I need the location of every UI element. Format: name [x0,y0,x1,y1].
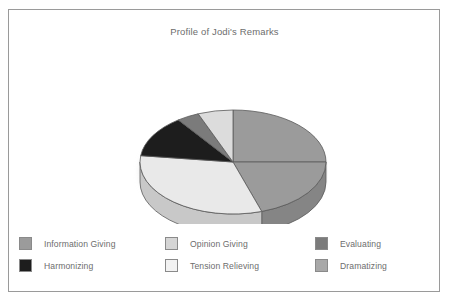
legend-swatch-icon [315,259,328,272]
legend-item-label: Information Giving [44,239,116,249]
legend-swatch-icon [165,259,178,272]
legend-item-label: Harmonizing [44,261,93,271]
legend-item-evaluating[interactable]: Evaluating [315,234,431,253]
legend-item-information-giving[interactable]: Information Giving [19,234,165,253]
pie-slices: Information Giving: 25Dramatizing: 20Opi… [140,110,326,214]
legend-row: Harmonizing Tension Relieving Dramatizin… [19,256,431,275]
legend-item-label: Dramatizing [340,261,387,271]
legend-item-label: Evaluating [340,239,381,249]
legend-swatch-icon [19,237,32,250]
legend-item-label: Opinion Giving [190,239,248,249]
legend-item-label: Tension Relieving [190,261,259,271]
legend-swatch-icon [19,259,32,272]
legend-item-dramatizing[interactable]: Dramatizing [315,256,431,275]
pie-chart: Information Giving: 25Dramatizing: 20Opi… [128,44,328,224]
legend-swatch-icon [165,237,178,250]
legend-item-harmonizing[interactable]: Harmonizing [19,256,165,275]
legend-swatch-icon [315,237,328,250]
pie-chart-svg: Information Giving: 25Dramatizing: 20Opi… [128,44,328,224]
chart-title: Profile of Jodi's Remarks [0,26,449,37]
legend-row: Information Giving Opinion Giving Evalua… [19,234,431,253]
chart-legend: Information Giving Opinion Giving Evalua… [19,232,431,282]
legend-item-opinion-giving[interactable]: Opinion Giving [165,234,315,253]
legend-item-tension-relieving[interactable]: Tension Relieving [165,256,315,275]
chart-figure: Profile of Jodi's Remarks Information Gi… [0,0,449,303]
pie-slice-information-giving[interactable]: Information Giving: 25 [233,110,326,162]
